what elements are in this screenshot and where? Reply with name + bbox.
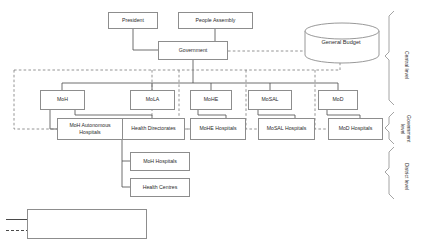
level-label-district: District level [404,148,410,204]
link-moh-autonomous [50,110,57,129]
node-mosal-hospitals[interactable]: MoSAL Hospitals [258,118,315,140]
node-mod[interactable]: MoD [318,90,358,110]
bracket-district-level [385,147,394,199]
node-moh-hospitals-district-label: MoH Hospitals [143,158,177,165]
node-moh[interactable]: MoH [40,90,85,110]
legend [27,209,147,239]
node-mod-hospitals[interactable]: MoD Hospitals [328,118,383,140]
node-president-label: President [122,17,144,24]
node-president[interactable]: President [108,12,158,29]
node-health-centres[interactable]: Health Centres [130,178,190,197]
node-moh-label: MoH [57,96,68,103]
node-mola[interactable]: MoLA [130,90,175,110]
node-moh-autonomous-hospitals-label-line1: MoH Autonomous [69,122,110,129]
node-mod-hospitals-label: MoD Hospitals [339,125,373,132]
level-label-government: Government level [400,108,412,150]
node-government[interactable]: Government [158,41,228,60]
node-mohe-label: MoHE [204,96,218,103]
link-mosal-hospitals [258,110,295,118]
node-moh-autonomous-hospitals[interactable]: MoH Autonomous Hospitals [57,118,123,140]
node-mohe-hospitals[interactable]: MoHE Hospitals [190,118,246,140]
node-mod-label: MoD [333,96,344,103]
node-mosal-hospitals-label: MoSAL Hospitals [267,125,307,132]
node-government-label: Government [179,47,208,54]
org-flow-diagram: President People Assembly Government Gen… [0,0,432,250]
node-mohe-hospitals-label: MoHE Hospitals [199,125,236,132]
level-label-central: Central level [404,30,410,100]
link-mod-hospitals [327,110,360,118]
link-mohe-hospitals [198,110,226,118]
node-health-directorates-label: Health Directorates [131,125,175,132]
link-president-government [133,28,158,50]
node-people-assembly[interactable]: People Assembly [178,12,253,29]
node-mosal[interactable]: MoSAL [248,90,292,110]
node-general-budget-label: General Budget [304,39,378,45]
node-mosal-label: MoSAL [261,96,278,103]
node-mohe[interactable]: MoHE [190,90,232,110]
node-health-centres-label: Health Centres [143,184,178,191]
node-people-assembly-label: People Assembly [196,17,236,24]
bracket-government-level [385,112,394,144]
node-moh-autonomous-hospitals-label-line2: Hospitals [79,129,100,136]
link-moh-directorates [75,110,152,118]
node-health-directorates[interactable]: Health Directorates [122,118,185,140]
node-mola-label: MoLA [146,96,160,103]
bracket-central-level [385,11,394,105]
node-moh-hospitals-district[interactable]: MoH Hospitals [130,152,190,171]
